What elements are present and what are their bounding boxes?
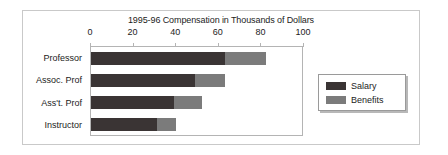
bar-segment-salary (91, 118, 157, 131)
legend-label: Salary (351, 81, 377, 91)
bar-row (91, 52, 304, 65)
x-axis-tick (303, 43, 304, 47)
bar-row (91, 74, 304, 87)
category-label: Instructor (44, 120, 82, 130)
bar-segment-benefits (195, 74, 225, 87)
category-label: Assoc. Prof (36, 75, 82, 85)
bar-segment-benefits (225, 52, 265, 65)
legend-item: Salary (326, 79, 377, 92)
chart-title: 1995-96 Compensation in Thousands of Dol… (23, 15, 419, 25)
bar-row (91, 96, 304, 109)
category-label: Professor (43, 53, 82, 63)
category-axis-labels: ProfessorAssoc. ProfAss't. ProfInstructo… (23, 47, 86, 136)
x-axis (90, 39, 303, 47)
legend-swatch-salary (326, 82, 346, 90)
bar-segment-benefits (157, 118, 176, 131)
chart-legend: SalaryBenefits (318, 74, 406, 111)
plot-area (90, 47, 303, 136)
x-axis-tick-label: 20 (128, 27, 138, 37)
x-axis-tick-label: 100 (295, 27, 310, 37)
category-label: Ass't. Prof (41, 98, 82, 108)
x-axis-tick-labels: 020406080100 (90, 27, 303, 39)
legend-label: Benefits (351, 95, 384, 105)
x-axis-tick-label: 40 (170, 27, 180, 37)
chart-frame: 1995-96 Compensation in Thousands of Dol… (22, 10, 420, 145)
bar-segment-salary (91, 52, 225, 65)
bar-segment-salary (91, 74, 195, 87)
x-axis-tick-label: 0 (87, 27, 92, 37)
legend-item: Benefits (326, 93, 384, 106)
bar-segment-salary (91, 96, 174, 109)
x-axis-tick-label: 60 (213, 27, 223, 37)
x-axis-tick-label: 80 (255, 27, 265, 37)
legend-swatch-benefits (326, 96, 346, 104)
bar-segment-benefits (174, 96, 202, 109)
bar-row (91, 118, 304, 131)
